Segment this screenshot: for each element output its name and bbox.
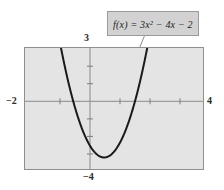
y-axis-max-label: 3 xyxy=(84,33,89,43)
equation-callout-box: f(x) = 3x² − 4x − 2 xyxy=(107,11,199,36)
y-axis-min-label: −4 xyxy=(83,172,94,182)
x-axis-min-label: −2 xyxy=(6,96,17,106)
function-graph-figure: f(x) = 3x² − 4x − 2 −2 4 3 −4 xyxy=(0,0,224,190)
x-axis-max-label: 4 xyxy=(207,96,212,106)
function-equation-label: f(x) = 3x² − 4x − 2 xyxy=(113,19,193,30)
